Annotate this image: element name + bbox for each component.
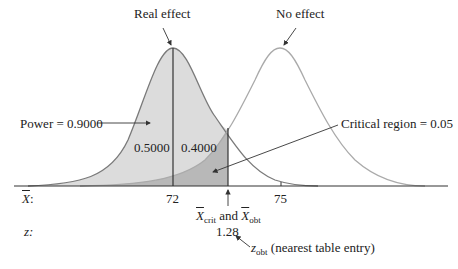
real-effect-label: Real effect [134, 7, 190, 20]
tick-72-label: 72 [166, 192, 179, 205]
critical-region-label: Critical region = 0.05 [341, 117, 453, 130]
area-left-label: 0.5000 [134, 141, 170, 154]
no-effect-arrow [284, 28, 296, 45]
power-label: Power = 0.9000 [20, 117, 103, 130]
tick-75-label: 75 [274, 192, 287, 205]
no-effect-label: No effect [276, 7, 324, 20]
real-effect-arrow [163, 28, 171, 45]
critical-region-arrow [213, 125, 338, 172]
z-axis-label: z: [24, 225, 33, 238]
z-value-label: 1.28 [216, 225, 239, 238]
xcrit-xobt-label: Xcrit and Xobt [196, 209, 261, 222]
area-right-label: 0.4000 [181, 141, 217, 154]
zobt-label: zobt (nearest table entry) [251, 241, 375, 254]
xbar-axis-label: X: [22, 192, 34, 205]
